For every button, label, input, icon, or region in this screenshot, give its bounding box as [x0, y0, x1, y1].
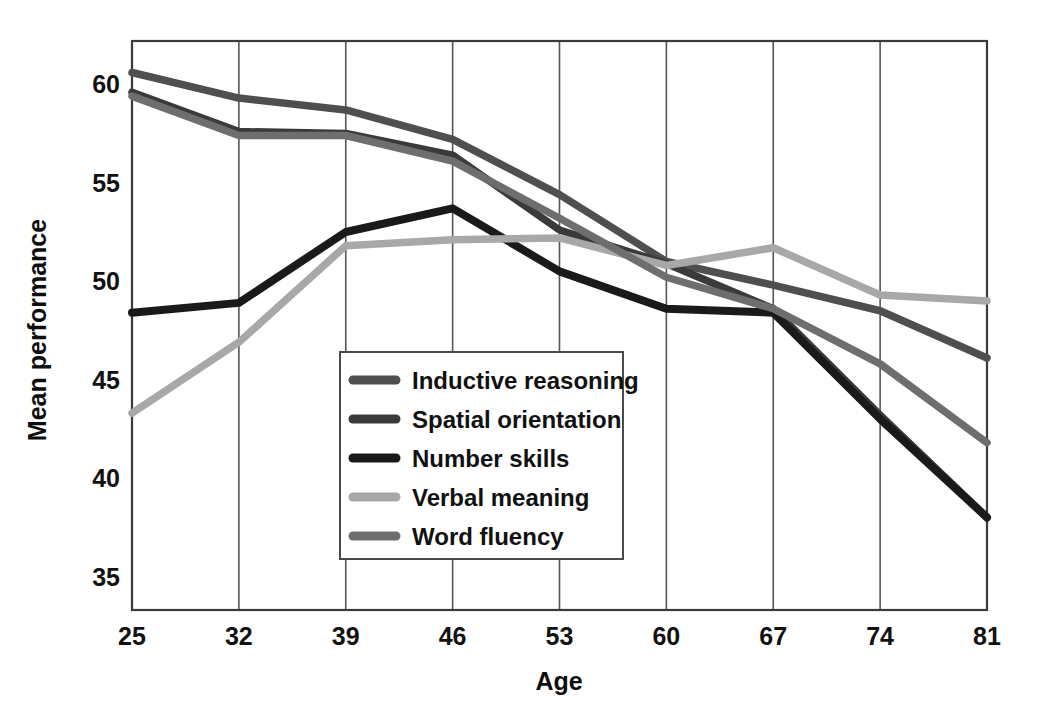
- x-tick-label: 81: [973, 622, 1001, 650]
- x-tick-label: 74: [866, 622, 894, 650]
- x-tick-label: 53: [546, 622, 574, 650]
- x-tick-label: 32: [225, 622, 253, 650]
- chart-figure: 253239465360677481 354045505560 Age Mean…: [0, 0, 1050, 712]
- x-tick-label: 60: [652, 622, 680, 650]
- x-axis-title: Age: [535, 667, 582, 695]
- y-tick-label: 55: [92, 169, 120, 197]
- legend-label-spatial-orientation: Spatial orientation: [412, 406, 621, 433]
- line-chart: 253239465360677481 354045505560 Age Mean…: [0, 0, 1050, 712]
- y-tick-label: 35: [92, 563, 120, 591]
- y-tick-label: 40: [92, 464, 120, 492]
- y-tick-label: 45: [92, 366, 120, 394]
- x-tick-label: 25: [118, 622, 146, 650]
- y-tick-label: 50: [92, 267, 120, 295]
- y-tick-label: 60: [92, 70, 120, 98]
- legend-label-verbal-meaning: Verbal meaning: [412, 484, 589, 511]
- legend-label-inductive-reasoning: Inductive reasoning: [412, 367, 639, 394]
- y-axis-title: Mean performance: [23, 219, 51, 441]
- x-tick-label: 39: [332, 622, 360, 650]
- x-tick-label: 67: [759, 622, 787, 650]
- x-axis-tick-labels: 253239465360677481: [118, 622, 1001, 650]
- legend-label-number-skills: Number skills: [412, 445, 569, 472]
- legend-label-word-fluency: Word fluency: [412, 523, 564, 550]
- x-tick-label: 46: [439, 622, 467, 650]
- chart-legend: Inductive reasoningSpatial orientationNu…: [340, 352, 639, 559]
